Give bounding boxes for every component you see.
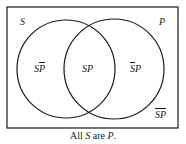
region-label-s-not-p: SP [34,64,45,74]
region-label-not-s-p: SP [130,64,141,74]
diagram-caption: All S are P. [0,131,186,141]
region-label-s-and-p: SP [82,64,93,74]
set-label-s: S [20,17,25,27]
region-label-not-s-not-p: SP [155,110,166,120]
set-label-p: P [159,17,165,27]
